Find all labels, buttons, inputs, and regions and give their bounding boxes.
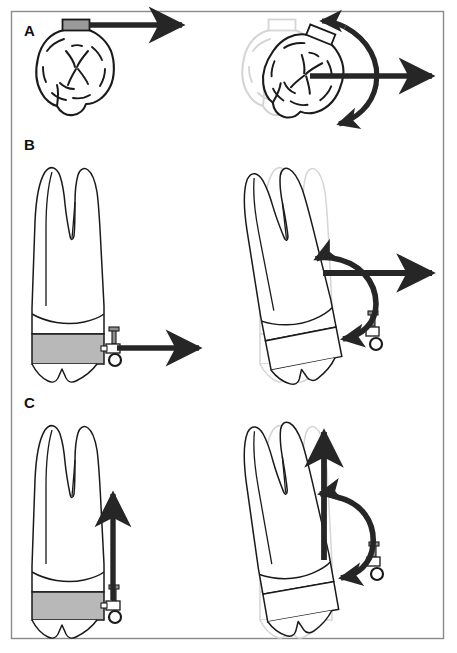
bracket-post — [112, 330, 116, 344]
eyelet-ring — [371, 568, 383, 580]
molar-band — [32, 592, 104, 620]
eyelet-ring — [109, 354, 121, 366]
orthodontic-force-diagram: A — [0, 0, 457, 653]
eyelet-ring — [370, 338, 382, 350]
molar-band — [32, 334, 104, 364]
eyelet-ring — [109, 611, 121, 623]
bracket-base — [101, 346, 107, 351]
couple-arrow-rotational-tail — [316, 257, 332, 259]
bracket-base — [101, 603, 107, 608]
occlusal-buccal-groove — [57, 85, 58, 106]
panel-label-a: A — [24, 22, 35, 39]
figure-root: A — [0, 0, 457, 653]
bracket-post-cap — [109, 327, 119, 331]
panel-label-c: C — [24, 394, 35, 411]
buccal-tube-attachment[interactable] — [63, 20, 90, 31]
panel-label-b: B — [24, 136, 35, 153]
bracket-slot — [106, 601, 120, 610]
